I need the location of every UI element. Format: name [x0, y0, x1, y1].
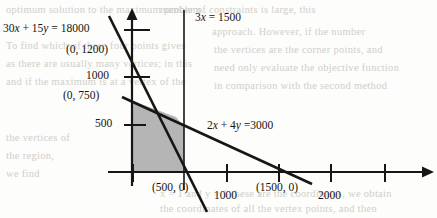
- feasible-region-shading: [133, 101, 184, 172]
- label-y-intercept-750: (0, 750): [63, 90, 99, 102]
- y-tick-label-500: 500: [95, 118, 112, 130]
- label-y-intercept-1200: (0, 1200): [66, 44, 108, 56]
- label-x-intercept-500: (500, 0): [152, 182, 188, 194]
- x-tick-label-2000: 2000: [318, 190, 341, 202]
- label-line2-equation: 2x + 4y =3000: [207, 120, 273, 132]
- y-axis-arrow-icon: [127, 8, 138, 20]
- label-line1-equation: 30x + 15y = 18000: [3, 23, 89, 35]
- figure-canvas: optimum solution to the maximum problem …: [0, 0, 437, 218]
- label-vertical-line-equation: 3x = 1500: [195, 12, 241, 24]
- x-tick-label-1000: 1000: [214, 190, 237, 202]
- label-x-intercept-1500: (1500, 0): [256, 182, 298, 194]
- x-axis-arrow-icon: [422, 167, 434, 178]
- y-tick-label-1000: 1000: [86, 70, 109, 82]
